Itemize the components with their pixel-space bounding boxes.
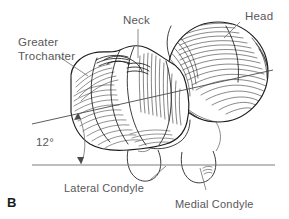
figure-panel-b: 12° Greater Trochanter Neck Head Lateral… xyxy=(0,0,289,219)
head-left-seam xyxy=(167,26,171,58)
femur-illustration xyxy=(71,22,269,183)
lateral-condyle-arc xyxy=(127,150,161,181)
angle-arrow-bottom xyxy=(77,157,84,164)
label-lateral-condyle: Lateral Condyle xyxy=(64,182,144,194)
medial-condyle-shading xyxy=(203,166,212,174)
medial-condyle-leader xyxy=(200,168,206,190)
label-neck: Neck xyxy=(123,14,150,26)
lateral-condyle-leader xyxy=(150,166,166,180)
label-medial-condyle: Medial Condyle xyxy=(175,198,254,210)
medial-condyle-arc xyxy=(181,151,216,183)
panel-letter: B xyxy=(7,195,16,210)
label-head: Head xyxy=(245,10,273,22)
label-greater-trochanter-line1: Greater xyxy=(18,36,58,48)
label-greater-trochanter-line2: Trochanter xyxy=(18,50,75,62)
head-to-condyle-connector xyxy=(216,122,221,151)
angle-value-label: 12° xyxy=(36,136,54,148)
